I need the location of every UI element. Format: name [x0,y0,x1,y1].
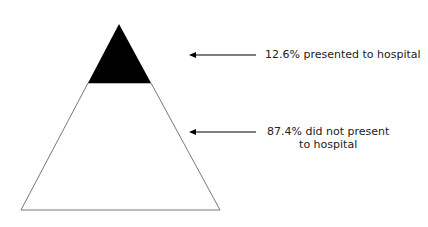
label-not-presented-line2: to hospital [267,138,389,151]
label-not-presented: 87.4% did not present to hospital [267,125,389,151]
label-not-presented-line1: 87.4% did not present [267,125,389,138]
pyramid-bottom-segment [21,83,220,210]
arrow-top [189,52,256,58]
pyramid-top-segment [88,24,151,83]
label-presented-text: 12.6% presented to hospital [265,48,421,61]
arrow-bottom [189,129,256,135]
label-presented: 12.6% presented to hospital [265,48,421,61]
pyramid-diagram [0,0,428,227]
